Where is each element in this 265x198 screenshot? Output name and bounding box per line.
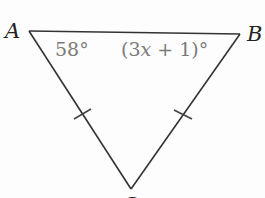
- vertex-label-c: C: [122, 193, 138, 198]
- vertex-label-a: A: [3, 19, 20, 43]
- angle-label-b: (3x + 1)°: [121, 38, 208, 60]
- angle-b-variable: x: [141, 38, 152, 60]
- vertex-label-b: B: [246, 22, 262, 46]
- angle-label-a: 58°: [55, 38, 89, 60]
- tick-mark-ac: [74, 109, 91, 119]
- tick-mark-bc: [174, 110, 192, 119]
- side-ab: [29, 31, 240, 34]
- angle-b-prefix: (3: [121, 38, 141, 60]
- angle-b-suffix: + 1)°: [151, 38, 208, 60]
- triangle-diagram: A B C 58° (3x + 1)°: [0, 0, 265, 198]
- triangle-svg: A B C 58° (3x + 1)°: [0, 0, 265, 198]
